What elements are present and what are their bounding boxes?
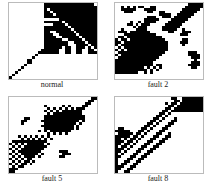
panel-normal: normal	[0, 0, 100, 92]
heatmap-fault-2	[114, 2, 204, 80]
caption-fault-8: fault 8	[106, 174, 210, 183]
heatmap-fault-5	[8, 96, 98, 174]
caption-fault-2: fault 2	[106, 80, 210, 89]
heatmap-fault-8	[114, 96, 204, 174]
panel-fault-2: fault 2	[106, 0, 206, 92]
heatmap-normal	[8, 2, 98, 80]
panel-fault-5: fault 5	[0, 94, 100, 186]
caption-normal: normal	[0, 80, 104, 89]
caption-fault-5: fault 5	[0, 174, 104, 183]
panel-fault-8: fault 8	[106, 94, 206, 186]
